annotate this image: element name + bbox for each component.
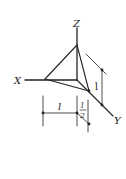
edge-z-y [77,45,89,91]
right-extension-line [86,54,106,74]
half-dim-dot [88,123,91,126]
y-axis-label: Y [114,115,122,126]
edge-x-z [45,45,77,79]
vertex-dot-y [88,90,91,93]
axes-diagram: Z X Y l l l 2 [0,0,126,179]
right-dim-dot-top [101,69,104,72]
half-numerator: l [81,101,84,110]
bottom-dim-dot-right [76,112,79,115]
diagram-canvas: Z X Y l l l 2 [0,0,126,179]
bottom-dimension-label: l [58,101,61,112]
right-dimension-label: l [94,81,99,92]
x-axis-label: X [13,75,22,86]
half-denominator: 2 [79,111,85,120]
bottom-dim-dot-left [42,112,45,115]
z-axis-label: Z [72,18,81,29]
right-dim-dot-bottom [101,104,104,107]
